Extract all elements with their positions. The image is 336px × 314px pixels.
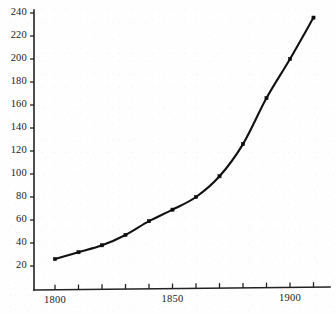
y-tick-label: 80 [16,190,27,201]
data-point-marker [100,244,103,247]
data-point-marker [147,220,150,223]
data-point-marker [288,57,291,60]
data-series-curve [55,18,314,260]
y-tick-label: 180 [11,75,27,86]
data-point-markers [53,16,315,261]
data-point-marker [312,16,315,19]
y-tick-label: 20 [16,259,27,270]
x-tick-label: 1850 [162,293,184,304]
data-point-marker [171,208,174,211]
y-tick-label: 120 [11,144,27,155]
x-axis-tick-labels: 180018501900 [44,292,301,305]
x-tick-label: 1900 [279,292,301,303]
chart-figure: 20406080100120140160180200220240 1800185… [0,0,336,314]
data-point-marker [53,258,56,261]
x-tick-label: 1800 [44,294,66,305]
data-point-marker [77,251,80,254]
y-tick-label: 40 [16,236,27,247]
y-tick-label: 160 [11,98,27,109]
y-axis-tick-labels: 20406080100120140160180200220240 [11,6,27,270]
y-tick-label: 200 [11,52,27,63]
y-tick-label: 240 [11,6,27,17]
data-point-marker [218,175,221,178]
y-tick-label: 100 [11,167,27,178]
data-point-marker [124,233,127,236]
y-tick-label: 140 [11,121,27,132]
y-tick-label: 60 [16,213,27,224]
y-tick-label: 220 [11,29,27,40]
data-point-marker [265,97,268,100]
data-point-marker [241,143,244,146]
data-point-marker [194,195,197,198]
chart-plot-area: 20406080100120140160180200220240 1800185… [0,0,336,314]
